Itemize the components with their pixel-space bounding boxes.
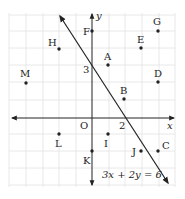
point-m — [24, 81, 27, 84]
point-m-label: M — [20, 68, 30, 79]
origin-label: O — [80, 120, 88, 131]
point-d — [156, 80, 159, 83]
coordinate-plane: x y O 2 3 3x + 2y = 6 F G H E A M D B L … — [0, 0, 185, 199]
point-l — [57, 132, 60, 135]
point-i-label: I — [104, 138, 108, 149]
x-tick-label-2: 2 — [119, 120, 125, 131]
point-b — [122, 97, 125, 100]
x-axis-label: x — [167, 120, 173, 131]
point-g — [156, 29, 159, 32]
y-axis-label: y — [95, 10, 102, 21]
point-h — [57, 47, 60, 50]
point-j — [139, 149, 142, 152]
point-e — [139, 46, 142, 49]
point-a — [106, 63, 109, 66]
point-i — [106, 132, 109, 135]
y-tick-label-3: 3 — [83, 64, 89, 75]
equation-label: 3x + 2y = 6 — [102, 169, 162, 180]
point-d-label: D — [154, 68, 162, 79]
point-g-label: G — [153, 16, 161, 27]
point-e-label: E — [137, 34, 144, 45]
point-f-label: F — [83, 26, 90, 37]
point-j-label: J — [131, 146, 136, 157]
point-c-label: C — [162, 140, 170, 151]
point-b-label: B — [120, 85, 127, 96]
point-f — [90, 29, 93, 32]
points: F G H E A M D B L I K J C — [20, 16, 170, 166]
point-h-label: H — [48, 37, 57, 48]
point-a-label: A — [103, 51, 112, 62]
point-l-label: L — [55, 138, 62, 149]
point-k — [90, 149, 93, 152]
point-c — [156, 149, 159, 152]
point-k-label: K — [83, 155, 91, 166]
